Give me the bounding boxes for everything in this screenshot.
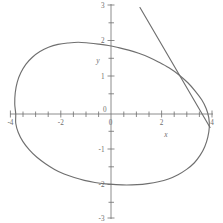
axis-lines (10, 4, 213, 219)
y-tick-labels: 3 2 1 0 -1 -2 -3 (99, 2, 107, 223)
x-axis-label: x (163, 130, 168, 139)
y-tick-label-1: 1 (101, 73, 105, 81)
x-tick-label-2: 2 (160, 119, 164, 127)
y-tick-label-2: 2 (101, 37, 105, 45)
y-tick-label--1: -1 (99, 146, 105, 154)
x-tick-label-0: 0 (109, 119, 113, 127)
x-tick-label-4: 4 (210, 119, 214, 127)
x-tick-label--4: -4 (7, 119, 13, 127)
x-tick-labels: -4 -2 2 4 0 (7, 119, 214, 127)
plot-figure: -4 -2 2 4 0 3 2 1 0 -1 -2 -3 y x (0, 0, 223, 223)
y-axis-label: y (95, 56, 100, 65)
x-tick-label--2: -2 (58, 119, 64, 127)
tangent-line (140, 8, 210, 128)
y-tick-label-3: 3 (101, 2, 105, 10)
y-tick-label-0: 0 (103, 106, 107, 114)
plot-canvas: -4 -2 2 4 0 3 2 1 0 -1 -2 -3 y x (0, 0, 223, 223)
y-tick-label--2: -2 (99, 181, 105, 189)
y-tick-label--3: -3 (99, 215, 105, 223)
